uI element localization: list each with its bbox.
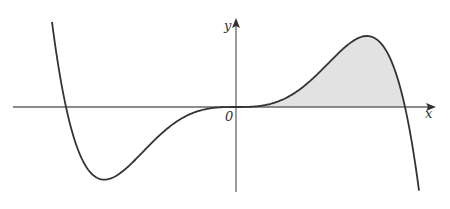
origin-label: 0 [225,109,233,124]
graph-figure: y x 0 [0,0,450,209]
x-axis-label: x [425,106,433,121]
y-axis-label: y [223,18,232,33]
